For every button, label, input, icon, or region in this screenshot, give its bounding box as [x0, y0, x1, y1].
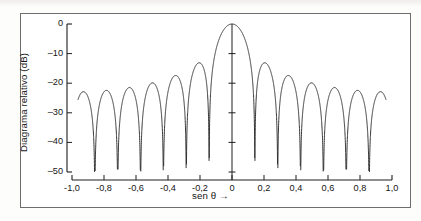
x-tick-label: 0,4: [279, 183, 313, 193]
x-tick-label: -0,2: [183, 183, 217, 193]
x-tick-label: 0,6: [311, 183, 345, 193]
axes-group: [67, 24, 392, 180]
x-tick-label: -0,8: [87, 183, 121, 193]
x-tick-label: 0,2: [247, 183, 281, 193]
x-tick-label: -0,6: [119, 183, 153, 193]
y-tick-label: 0: [31, 18, 63, 28]
y-axis-label: Diagrama relativo (dB): [18, 33, 29, 173]
y-tick-label: –30: [31, 107, 63, 117]
y-tick-label: –20: [31, 77, 63, 87]
x-tick-label: 0,8: [343, 183, 377, 193]
y-tick-label: –50: [31, 166, 63, 176]
y-tick-label: –10: [31, 48, 63, 58]
x-tick-label: -0,4: [151, 183, 185, 193]
y-tick-label: –40: [31, 136, 63, 146]
figure-container: Diagrama relativo (dB) sen θ → -1,0-0,8-…: [0, 0, 421, 221]
x-tick-label: -1,0: [55, 183, 89, 193]
x-tick-label: 0: [215, 183, 249, 193]
x-tick-label: 1,0: [375, 183, 409, 193]
